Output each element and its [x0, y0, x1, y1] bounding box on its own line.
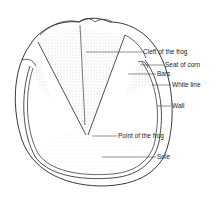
hoof-diagram	[0, 0, 217, 199]
label-cleft-of-frog: Cleft of the frog	[143, 49, 187, 56]
label-white-line: White line	[172, 82, 201, 89]
bar-right-shade	[125, 60, 152, 97]
frog	[38, 28, 122, 135]
label-seat-of-corn: Seat of corn	[165, 62, 200, 69]
label-sole: Sole	[157, 154, 170, 161]
label-point-of-frog: Point of the frog	[118, 133, 164, 140]
label-bars: Bars	[157, 71, 170, 78]
label-wall: Wall	[172, 103, 184, 110]
bar-left-shade	[30, 60, 52, 100]
